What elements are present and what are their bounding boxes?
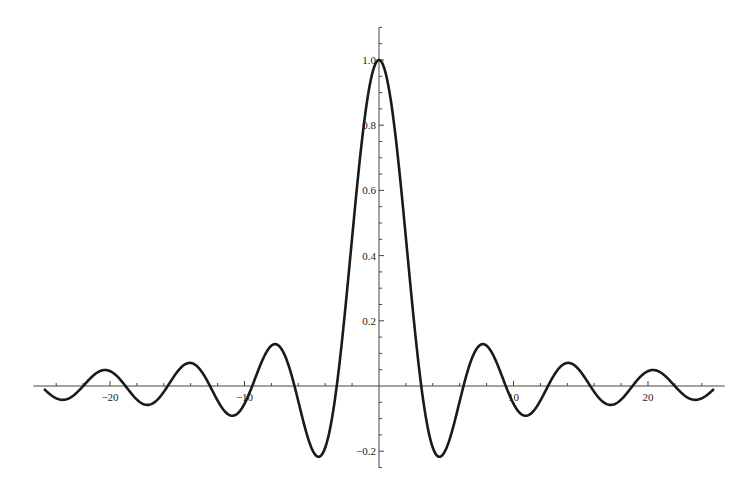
- y-tick-label: 0.6: [362, 184, 376, 196]
- y-tick-label: 0.4: [362, 250, 376, 262]
- axes: [33, 27, 724, 467]
- y-tick-label: 0.2: [362, 315, 376, 327]
- x-tick-label: −20: [101, 391, 119, 403]
- x-tick-labels: −20−101020: [101, 391, 654, 403]
- sinc-plot: −20−101020 −0.20.20.40.60.81.0: [0, 0, 750, 487]
- y-ticks: [379, 27, 384, 467]
- y-tick-label: −0.2: [356, 445, 376, 457]
- x-tick-label: 20: [643, 391, 655, 403]
